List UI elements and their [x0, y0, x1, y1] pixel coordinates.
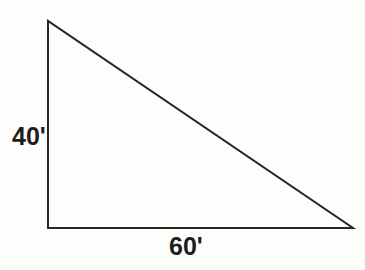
triangle-diagram: 40' 60' — [0, 0, 365, 270]
right-triangle-outline — [48, 21, 353, 228]
horizontal-leg-dimension-label: 60' — [169, 234, 203, 259]
vertical-leg-dimension-label: 40' — [12, 124, 46, 149]
triangle-shape — [0, 0, 365, 270]
